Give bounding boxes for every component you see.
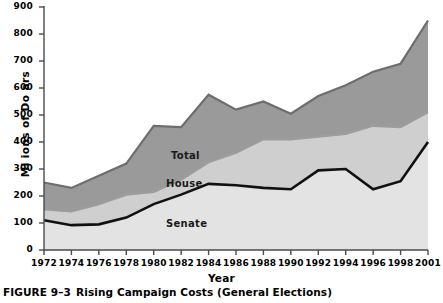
y-axis-tick-label: 500 [3, 109, 33, 119]
y-axis-tick-label: 800 [3, 28, 33, 38]
y-axis-tick-label: 600 [3, 82, 33, 92]
y-axis-tick-label: 700 [3, 55, 33, 65]
x-axis-tick-label: 2001 [411, 258, 443, 268]
y-axis-title: Mi ions of Do ars [19, 44, 31, 204]
series-label-senate: Senate [166, 218, 207, 229]
y-axis-tick-label: 300 [3, 163, 33, 173]
y-axis-tick-label: 900 [3, 1, 33, 11]
chart-plot-area: Mi ions of Do ars Year 90080070060050040… [0, 0, 443, 272]
x-axis-title: Year [0, 272, 443, 284]
figure-caption-text: Rising Campaign Costs (General Elections… [76, 286, 332, 298]
area-chart-svg [0, 0, 443, 272]
y-axis-tick-label: 400 [3, 136, 33, 146]
series-label-total: Total [171, 150, 200, 161]
figure-number: FIGURE 9–3 [3, 286, 71, 298]
y-axis-tick-label: 200 [3, 190, 33, 200]
series-label-house: House [166, 178, 203, 189]
figure-caption: FIGURE 9–3Rising Campaign Costs (General… [3, 286, 332, 298]
figure-container: Mi ions of Do ars Year 90080070060050040… [0, 0, 443, 303]
y-axis-tick-label: 0 [3, 244, 33, 254]
y-axis-tick-label: 100 [3, 217, 33, 227]
